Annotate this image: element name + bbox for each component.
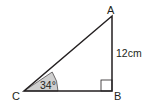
- triangle-diagram: A B C 12cm 34°: [0, 0, 150, 104]
- vertex-label-c: C: [12, 90, 20, 102]
- vertex-label-a: A: [107, 4, 115, 16]
- vertex-label-b: B: [114, 90, 121, 102]
- side-length-ab: 12cm: [116, 47, 142, 59]
- triangle-abc: [24, 16, 112, 91]
- angle-label-c: 34°: [40, 79, 56, 91]
- right-angle-marker: [101, 80, 112, 91]
